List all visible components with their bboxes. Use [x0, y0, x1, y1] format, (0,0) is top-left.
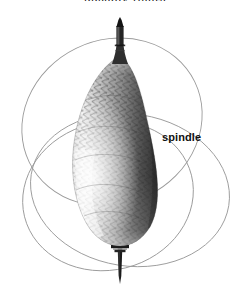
label-spindle: spindle [162, 131, 201, 143]
spindle-body [60, 50, 170, 255]
spindle-illustration [0, 0, 250, 290]
spindle-tip [112, 17, 128, 64]
spindle-weave-texture [60, 50, 170, 255]
figure-container: ppendix figure [0, 0, 250, 290]
